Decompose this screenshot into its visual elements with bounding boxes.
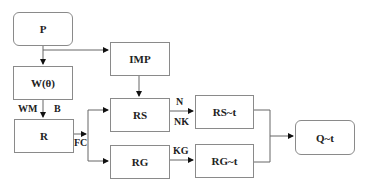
node-q-t-label: Q~t — [316, 132, 334, 144]
edge-label-b: B — [54, 104, 61, 114]
node-rs-t: RS~t — [195, 95, 254, 129]
node-p: P — [13, 12, 73, 46]
edge-label-nk: NK — [174, 117, 189, 127]
node-rg: RG — [110, 145, 170, 179]
node-w-theta: W(θ) — [13, 66, 73, 100]
node-rs: RS — [110, 98, 170, 132]
node-rg-t-label: RG~t — [212, 155, 238, 167]
node-rg-label: RG — [132, 156, 149, 168]
node-imp-label: IMP — [129, 53, 150, 65]
node-q-t: Q~t — [295, 120, 355, 155]
node-r: R — [14, 119, 74, 153]
node-rs-label: RS — [133, 109, 147, 121]
node-p-label: P — [40, 23, 47, 35]
node-imp: IMP — [110, 42, 170, 76]
node-rs-t-label: RS~t — [213, 106, 236, 118]
node-rg-t: RG~t — [195, 144, 254, 178]
node-w-label: W(θ) — [31, 77, 55, 89]
node-r-label: R — [40, 130, 48, 142]
edge-label-wm: WM — [18, 104, 37, 114]
edge-label-kg: KG — [173, 146, 189, 156]
edge-label-fc: FC — [74, 138, 87, 148]
edge-label-n: N — [176, 97, 183, 107]
